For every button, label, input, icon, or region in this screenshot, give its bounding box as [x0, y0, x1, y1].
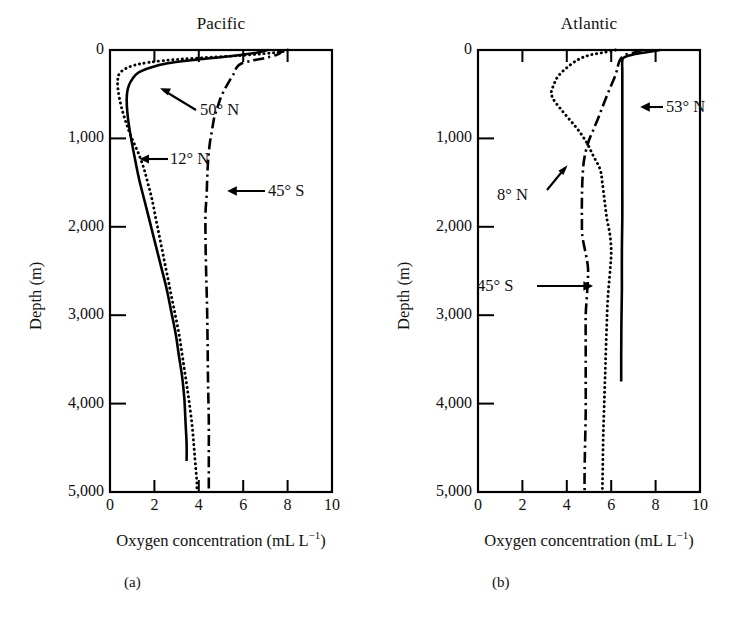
- panel-atlantic: Atlantic: [367, 0, 737, 628]
- panel-b-ytick-0: 0: [404, 40, 472, 58]
- panel-b-xtick-4: 4: [549, 496, 585, 514]
- leader-pacific-45S: [227, 186, 265, 196]
- leader-pacific-12N: [140, 154, 168, 163]
- annotation-atlantic-8N: 8° N: [497, 185, 528, 205]
- curve-atlantic-53N: [621, 50, 660, 382]
- annotation-pacific-12N: 12° N: [170, 149, 209, 169]
- curve-pacific-50N: [127, 50, 268, 461]
- panel-a-xtick-4: 4: [181, 496, 217, 514]
- panel-a-ytick-1000: 1,000: [36, 128, 104, 146]
- curve-atlantic-45S: [582, 50, 642, 492]
- panel-b-xtick-6: 6: [593, 496, 629, 514]
- panel-b-xtick-0: 0: [460, 496, 496, 514]
- panel-a-x-axis-label: Oxygen concentration (mL L−1): [76, 529, 366, 551]
- panel-a-ytick-4000: 4,000: [36, 394, 104, 412]
- panel-b-y-ticks: [478, 138, 494, 403]
- panel-b-caption: (b): [492, 574, 510, 591]
- panel-a-ytick-0: 0: [36, 40, 104, 58]
- panel-a-x-axis-label-tail: ): [320, 531, 326, 550]
- annotation-pacific-45S: 45° S: [268, 181, 304, 201]
- leader-atlantic-8N: [547, 165, 568, 190]
- panel-a-y-ticks: [110, 138, 126, 403]
- panel-b-xtick-10: 10: [682, 496, 718, 514]
- panel-a-x-axis-label-main: Oxygen concentration (mL L: [116, 531, 308, 550]
- panel-b-xtick-2: 2: [504, 496, 540, 514]
- panel-a-ytick-3000: 3,000: [36, 305, 104, 323]
- panel-b-ytick-2000: 2,000: [404, 217, 472, 235]
- panel-a-xtick-2: 2: [136, 496, 172, 514]
- panel-b-x-axis-label-main: Oxygen concentration (mL L: [484, 531, 676, 550]
- annotation-pacific-50N: 50° N: [200, 100, 239, 120]
- leader-atlantic-53N: [640, 102, 663, 112]
- panel-a-y-axis-label: Depth (m): [26, 262, 46, 330]
- panel-pacific: Pacific: [0, 0, 370, 628]
- panel-b-ytick-1000: 1,000: [404, 128, 472, 146]
- panel-a-xtick-6: 6: [225, 496, 261, 514]
- annotation-atlantic-53N: 53° N: [666, 97, 705, 117]
- annotation-atlantic-45S: 45° S: [477, 276, 513, 296]
- panel-b-y-axis-label: Depth (m): [394, 262, 414, 330]
- oxygen-depth-profile-figure: Pacific: [0, 0, 737, 628]
- panel-a-xtick-10: 10: [314, 496, 350, 514]
- leader-atlantic-45S: [537, 281, 593, 291]
- panel-b-x-axis-label-tail: ): [688, 531, 694, 550]
- panel-b-ytick-4000: 4,000: [404, 394, 472, 412]
- leader-pacific-50N: [160, 88, 196, 110]
- panel-b-xtick-8: 8: [638, 496, 674, 514]
- panel-a-x-axis-label-exponent: −1: [309, 529, 321, 541]
- panel-a-xtick-8: 8: [270, 496, 306, 514]
- curve-atlantic-8N: [551, 50, 615, 492]
- panel-b-x-axis-label: Oxygen concentration (mL L−1): [444, 529, 734, 551]
- panel-b-x-axis-label-exponent: −1: [677, 529, 689, 541]
- panel-b-ytick-3000: 3,000: [404, 305, 472, 323]
- panel-a-caption: (a): [124, 574, 141, 591]
- panel-a-xtick-0: 0: [92, 496, 128, 514]
- panel-a-ytick-2000: 2,000: [36, 217, 104, 235]
